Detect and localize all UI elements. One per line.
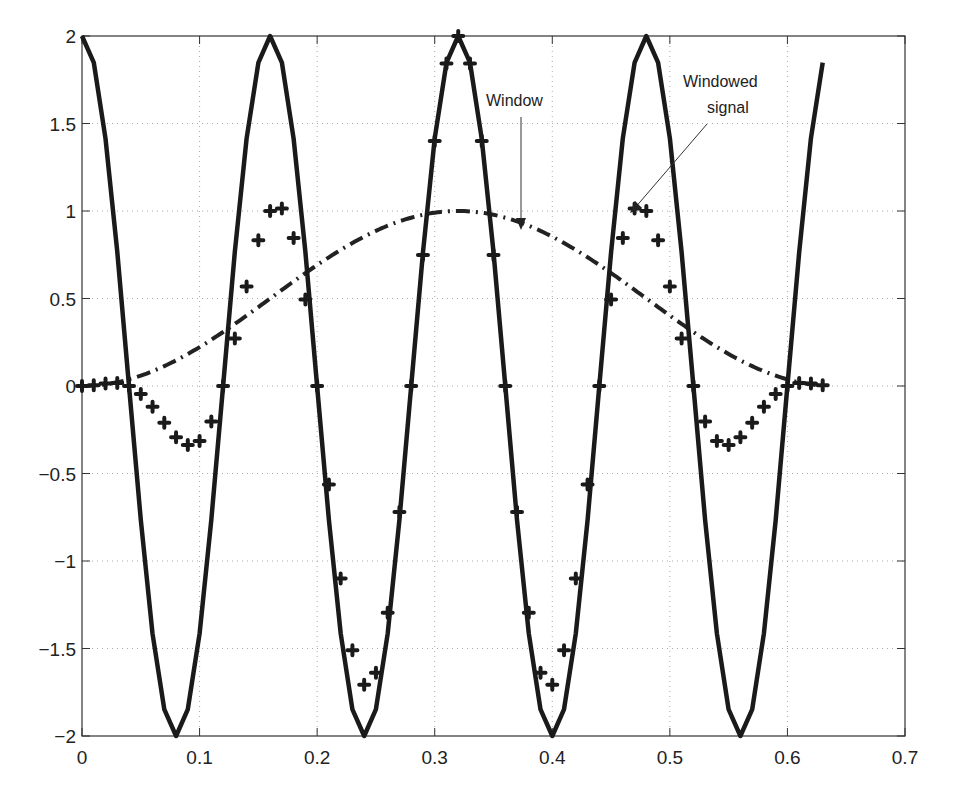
x-tick-label: 0 bbox=[77, 747, 88, 768]
y-tick-label: 0 bbox=[65, 376, 76, 397]
windowed-signal-marker bbox=[688, 381, 698, 391]
windowed-signal-marker bbox=[347, 645, 357, 655]
windowed-signal-marker bbox=[477, 136, 487, 146]
y-tick-label: 2 bbox=[65, 26, 76, 47]
windowed-signal-marker bbox=[394, 507, 404, 517]
windowed-signal-marker bbox=[242, 281, 252, 291]
x-tick-label: 0.2 bbox=[304, 747, 330, 768]
windowed-signal-marker bbox=[89, 380, 99, 390]
window-annotation-label: Window bbox=[486, 92, 543, 109]
windowed-signal-marker bbox=[159, 418, 169, 428]
windowed-signal-marker bbox=[665, 281, 675, 291]
windowed-signal-marker bbox=[641, 206, 651, 216]
windowed-signal-marker bbox=[489, 250, 499, 260]
window-arrowhead-icon bbox=[516, 218, 526, 230]
windowed-signal-marker bbox=[77, 381, 87, 391]
y-tick-label: −1.5 bbox=[38, 639, 76, 660]
windowed-signal-marker bbox=[124, 381, 134, 391]
windowed-signal-marker bbox=[195, 436, 205, 446]
y-tick-label: −0.5 bbox=[38, 464, 76, 485]
windowed-annotation-label-line1: Windowed bbox=[683, 73, 758, 90]
windowed-signal-marker bbox=[500, 381, 510, 391]
windowed-signal-marker bbox=[747, 418, 757, 428]
windowed-signal-marker bbox=[277, 203, 287, 213]
windowed-signal-marker bbox=[677, 333, 687, 343]
windowed-signal-marker bbox=[818, 380, 828, 390]
windowed-signal-marker bbox=[289, 233, 299, 243]
windowed-signal-marker bbox=[735, 432, 745, 442]
windowed-signal-marker bbox=[253, 235, 263, 245]
y-tick-label: 0.5 bbox=[50, 289, 76, 310]
windowed-signal-marker bbox=[700, 416, 710, 426]
windowed-signal-marker bbox=[771, 389, 781, 399]
windowed-signal-marker bbox=[265, 206, 275, 216]
windowed-signal-marker bbox=[359, 680, 369, 690]
windowed-signal-marker bbox=[136, 389, 146, 399]
y-tick-label: −1 bbox=[54, 551, 76, 572]
y-tick-label: 1.5 bbox=[50, 114, 76, 135]
windowed-signal-marker bbox=[218, 381, 228, 391]
y-tick-label: 1 bbox=[65, 201, 76, 222]
windowed-signal-marker bbox=[759, 402, 769, 412]
x-tick-label: 0.3 bbox=[422, 747, 448, 768]
windowed-signal-marker bbox=[594, 381, 604, 391]
windowed-signal-marker bbox=[230, 333, 240, 343]
x-tick-label: 0.1 bbox=[186, 747, 212, 768]
x-tick-label: 0.4 bbox=[539, 747, 566, 768]
windowed-signal-marker bbox=[418, 250, 428, 260]
windowed-signal-marker bbox=[547, 680, 557, 690]
windowed-signal-marker bbox=[806, 379, 816, 389]
y-tick-label: −2 bbox=[54, 726, 76, 747]
chart: 00.10.20.30.40.50.60.721.510.50−0.5−1−1.… bbox=[0, 0, 953, 801]
x-tick-label: 0.7 bbox=[892, 747, 918, 768]
windowed-signal-marker bbox=[183, 440, 193, 450]
windowed-signal-markers bbox=[77, 31, 828, 690]
windowed-signal-marker bbox=[653, 235, 663, 245]
windowed-signal-marker bbox=[148, 402, 158, 412]
windowed-signal-marker bbox=[171, 432, 181, 442]
windowed-signal-marker bbox=[782, 381, 792, 391]
x-tick-label: 0.5 bbox=[657, 747, 683, 768]
windowed-signal-marker bbox=[206, 416, 216, 426]
windowed-signal-marker bbox=[512, 507, 522, 517]
windowed-signal-marker bbox=[712, 436, 722, 446]
windowed-signal-marker bbox=[406, 381, 416, 391]
windowed-signal-marker bbox=[724, 440, 734, 450]
windowed-signal-marker bbox=[101, 379, 111, 389]
windowed-annotation-label-line2: signal bbox=[707, 99, 749, 116]
windowed-signal-marker bbox=[618, 233, 628, 243]
windowed-signal-marker bbox=[430, 136, 440, 146]
x-tick-label: 0.6 bbox=[774, 747, 800, 768]
windowed-signal-marker bbox=[312, 381, 322, 391]
windowed-signal-marker bbox=[559, 645, 569, 655]
